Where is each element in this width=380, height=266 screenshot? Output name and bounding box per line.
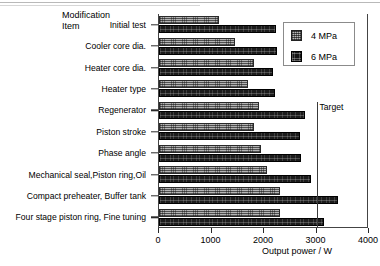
legend-entry: 4 MPa: [291, 30, 337, 41]
bar-6mpa: [159, 132, 300, 140]
bar-4mpa: [159, 145, 261, 153]
x-axis-tick: [316, 228, 317, 233]
bar-6mpa: [159, 68, 273, 76]
category-tick: [151, 217, 158, 218]
legend-swatch-6mpa: [291, 51, 302, 62]
bar-6mpa: [159, 175, 311, 183]
x-axis-tick-label: 1000: [200, 235, 220, 245]
category-label: Compact preheater, Buffer tank: [27, 191, 146, 201]
chart-legend: 4 MPa6 MPa: [283, 22, 355, 66]
bar-6mpa: [159, 111, 305, 119]
bar-4mpa: [159, 187, 280, 195]
category-tick: [151, 67, 158, 68]
x-axis-tick-label: 4000: [358, 235, 378, 245]
x-axis-tick-label: 3000: [305, 235, 325, 245]
category-tick: [151, 131, 158, 132]
category-label: Regenerator: [98, 105, 146, 115]
bar-6mpa: [159, 89, 275, 97]
bar-4mpa: [159, 102, 259, 110]
bar-4mpa: [159, 80, 248, 88]
category-tick: [151, 110, 158, 111]
bar-6mpa: [159, 196, 338, 204]
x-axis-tick: [158, 228, 159, 233]
legend-label: 4 MPa: [311, 31, 337, 41]
bar-4mpa: [159, 166, 267, 174]
target-line: [317, 102, 318, 228]
legend-entry: 6 MPa: [291, 51, 337, 62]
bar-6mpa: [159, 218, 324, 226]
category-label: Mechanical seal,Piston ring,Oil: [28, 170, 146, 180]
bar-4mpa: [159, 59, 254, 67]
category-label: Heater core dia.: [85, 63, 146, 73]
category-tick: [151, 152, 158, 153]
category-tick: [151, 195, 158, 196]
chart-root: Modification Item Initial testCooler cor…: [0, 0, 380, 266]
scan-artifact-line-secondary: [0, 5, 200, 6]
bar-4mpa: [159, 123, 254, 131]
legend-swatch-4mpa: [291, 30, 302, 41]
category-label: Piston stroke: [96, 127, 146, 137]
category-label: Phase angle: [98, 148, 146, 158]
x-axis-tick-label: 2000: [253, 235, 273, 245]
category-tick: [151, 174, 158, 175]
category-tick: [151, 88, 158, 89]
x-axis-title: Output power / W: [262, 246, 332, 256]
legend-label: 6 MPa: [311, 52, 337, 62]
x-axis-tick: [263, 228, 264, 233]
bar-4mpa: [159, 209, 280, 217]
bar-6mpa: [159, 154, 301, 162]
category-label: Four stage piston ring, Fine tuning: [16, 212, 146, 222]
scan-artifact-line: [0, 2, 380, 3]
category-label: Heater type: [102, 84, 146, 94]
x-axis-tick: [368, 228, 369, 233]
x-axis-tick: [211, 228, 212, 233]
x-axis-tick-label: 0: [155, 235, 160, 245]
target-label: Target: [320, 102, 344, 112]
